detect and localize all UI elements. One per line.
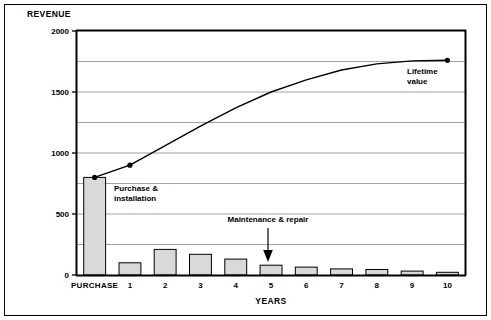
- x-axis-title: YEARS: [255, 296, 286, 306]
- y-tick-label-1500: 1500: [51, 88, 69, 97]
- annotation-maintenance-repair-label: Maintenance & repair: [228, 215, 309, 224]
- x-tick-label-1: 1: [128, 281, 133, 290]
- line-marker-purchase: [92, 175, 97, 180]
- x-tick-label-6: 6: [304, 281, 309, 290]
- bar-5: [260, 265, 282, 275]
- annotation-purchase-installation-line-1: Purchase &: [114, 184, 158, 193]
- x-tick-label-5: 5: [269, 281, 274, 290]
- x-tick-label-10: 10: [443, 281, 452, 290]
- bar-4: [225, 259, 247, 275]
- annotation-purchase-installation: Purchase & installation: [114, 184, 158, 203]
- line-marker-1: [127, 163, 132, 168]
- x-tick-label-2: 2: [163, 281, 168, 290]
- bar-9: [401, 271, 423, 275]
- line-marker-10: [445, 58, 450, 63]
- revenue-lifetime-value-chart: REVENUE 0500100015002000 PURCHASE1234567…: [0, 0, 491, 320]
- x-tick-label-7: 7: [339, 281, 344, 290]
- bar-2: [154, 249, 176, 275]
- bar-7: [331, 269, 353, 275]
- x-tick-label-9: 9: [410, 281, 415, 290]
- bar-3: [190, 254, 212, 275]
- x-tick-label-4: 4: [233, 281, 238, 290]
- x-tick-label-3: 3: [198, 281, 203, 290]
- y-tick-label-500: 500: [56, 210, 70, 219]
- x-tick-label-8: 8: [375, 281, 380, 290]
- x-tick-label-purchase: PURCHASE: [71, 281, 119, 290]
- y-axis-title: REVENUE: [27, 9, 71, 19]
- bar-8: [366, 270, 388, 276]
- bar-purchase: [84, 177, 106, 275]
- y-tick-label-0: 0: [65, 271, 70, 280]
- y-tick-label-1000: 1000: [51, 149, 69, 158]
- y-tick-label-2000: 2000: [51, 27, 69, 36]
- annotation-lifetime-value-line-2: value: [407, 77, 428, 86]
- annotation-lifetime-value-line-1: Lifetime: [407, 67, 438, 76]
- bar-1: [119, 263, 141, 275]
- bar-6: [295, 267, 317, 275]
- chart-container: REVENUE 0500100015002000 PURCHASE1234567…: [0, 0, 491, 320]
- annotation-purchase-installation-line-2: installation: [114, 194, 156, 203]
